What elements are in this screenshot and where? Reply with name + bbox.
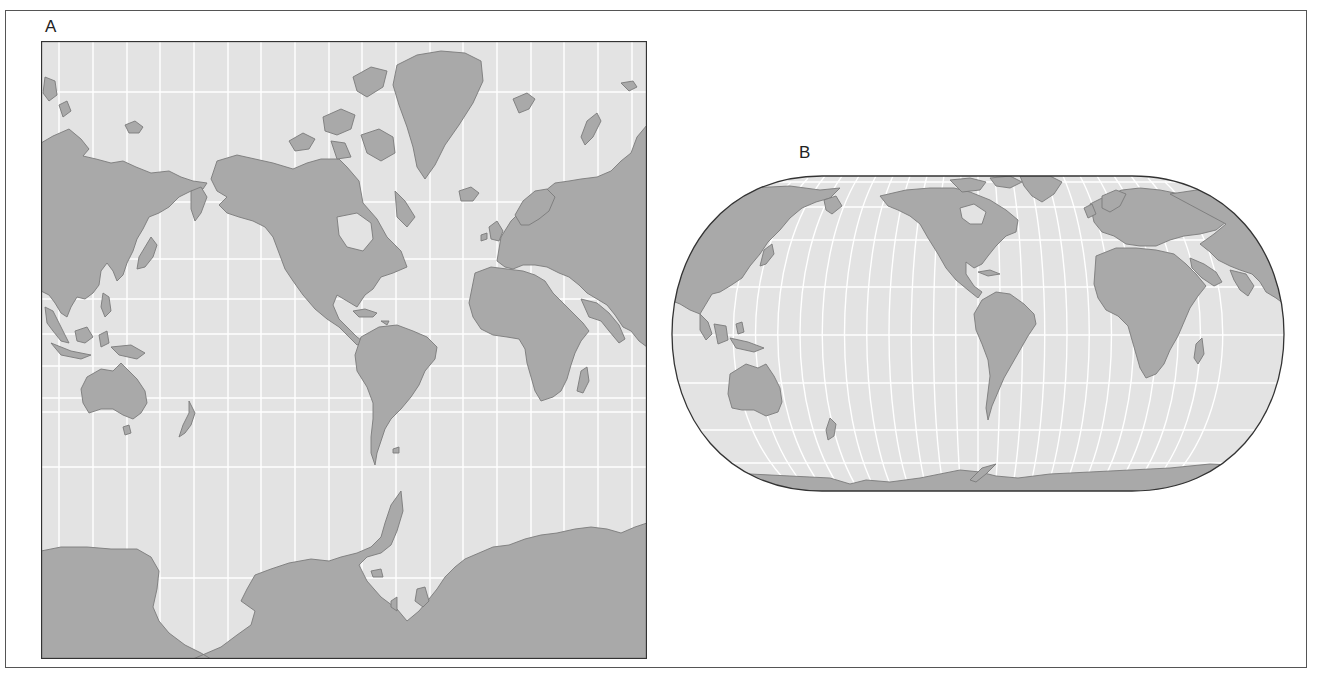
map-b-eckert [670, 174, 1286, 494]
panel-a-label: A [45, 17, 56, 37]
land-tasmania [123, 425, 131, 435]
panel-b-label: B [799, 143, 810, 163]
map-a-mercator [41, 41, 647, 659]
